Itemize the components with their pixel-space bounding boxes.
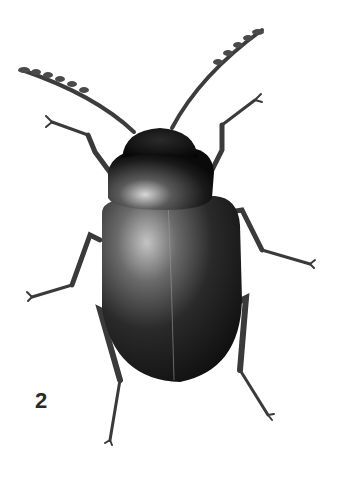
beetle-illustration <box>0 0 345 479</box>
right-antenna <box>172 30 262 128</box>
figure-number-label: 2 <box>35 390 47 412</box>
left-antenna <box>22 70 134 132</box>
